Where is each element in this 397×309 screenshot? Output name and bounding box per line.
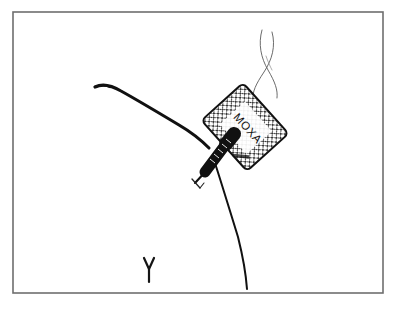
figure-root: MOXA ٢ [0, 0, 397, 309]
page-background [0, 0, 397, 309]
figure-canvas: MOXA ٢ [0, 0, 397, 309]
figure-number-mark: ٢ [144, 258, 154, 282]
